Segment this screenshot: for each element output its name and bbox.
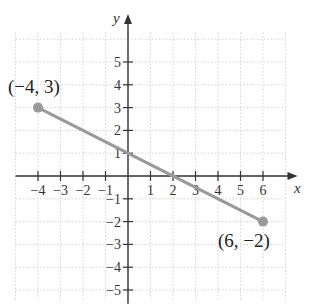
- x-tick-label: 4: [215, 183, 222, 198]
- x-tick-label: 5: [237, 183, 244, 198]
- y-tick-label: −3: [106, 237, 121, 252]
- point-label-a: (−4, 3): [8, 76, 60, 98]
- y-tick-label: 5: [114, 55, 121, 70]
- coordinate-plane: −4−3−2−1123456−5−4−3−2−112345 y x (−4, 3…: [0, 0, 311, 305]
- x-tick-label: −2: [76, 183, 91, 198]
- point-label-b: (6, −2): [218, 230, 270, 252]
- y-tick-label: 4: [114, 78, 121, 93]
- endpoint-marker: [33, 103, 43, 113]
- y-tick-label: −2: [106, 215, 121, 230]
- x-axis-arrow-icon: [288, 172, 298, 180]
- x-tick-label: −3: [53, 183, 68, 198]
- grid: [16, 32, 286, 301]
- y-tick-label: 2: [114, 123, 121, 138]
- y-tick-label: −4: [106, 260, 121, 275]
- axes: [16, 14, 298, 304]
- y-tick-label: 3: [114, 101, 121, 116]
- x-tick-label: −4: [31, 183, 46, 198]
- y-tick-label: −1: [106, 192, 121, 207]
- x-tick-label: 6: [260, 183, 267, 198]
- endpoint-marker: [258, 217, 268, 227]
- y-axis-label: y: [111, 10, 120, 26]
- x-tick-label: 2: [170, 183, 177, 198]
- y-axis-arrow-icon: [124, 14, 132, 24]
- x-axis-label: x: [293, 180, 301, 196]
- y-tick-label: −5: [106, 283, 121, 298]
- x-tick-label: 1: [147, 183, 154, 198]
